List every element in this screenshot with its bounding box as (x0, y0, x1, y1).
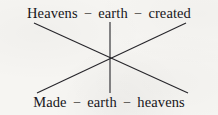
diagonal-created-to-made-line (37, 23, 186, 93)
top-term-heavens: Heavens (27, 6, 78, 21)
bottom-separator-2: – (121, 94, 134, 107)
top-separator-2: – (132, 5, 145, 18)
top-term-row: Heavens – earth – created (0, 6, 218, 21)
top-term-earth: earth (98, 6, 127, 21)
bottom-term-row: Made – earth – heavens (0, 95, 218, 110)
bottom-term-heavens: heavens (137, 95, 184, 110)
bottom-term-made: Made (33, 95, 66, 110)
chiasmus-diagram: Heavens – earth – created Made – earth –… (0, 0, 218, 115)
diagonal-heavens-to-heavens-line (34, 23, 188, 93)
top-separator-1: – (82, 5, 95, 18)
bottom-separator-1: – (71, 94, 84, 107)
top-term-created: created (148, 6, 191, 21)
bottom-term-earth: earth (87, 95, 116, 110)
